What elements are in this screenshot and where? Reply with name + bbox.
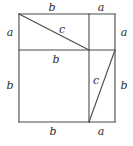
label-left-a: a — [7, 27, 14, 38]
label-left-b: b — [6, 80, 13, 91]
label-inner-b: b — [52, 54, 59, 65]
label-top-b: b — [48, 2, 55, 13]
label-bottom-a: a — [98, 126, 105, 137]
hypotenuse-upper — [19, 14, 89, 50]
diagram-canvas — [0, 0, 133, 146]
pythagorean-diagram: baababbacbc — [0, 0, 133, 146]
label-top-a: a — [98, 2, 105, 13]
label-hypotenuse-lower: c — [93, 75, 99, 86]
label-right-a: a — [121, 27, 128, 38]
label-right-b: b — [120, 80, 127, 91]
label-hypotenuse-upper: c — [59, 24, 65, 35]
label-bottom-b: b — [49, 126, 56, 137]
